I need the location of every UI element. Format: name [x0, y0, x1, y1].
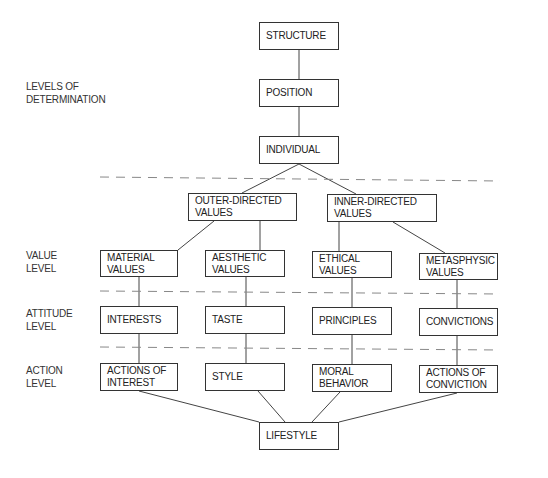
node-taste: TASTE — [205, 306, 285, 334]
node-convictions: CONVICTIONS — [419, 308, 498, 336]
label-value-level: VALUE LEVEL — [26, 249, 57, 275]
node-inner-directed-values: INNER-DIRECTED VALUES — [327, 194, 437, 222]
node-label: METASPHYSIC VALUES — [426, 255, 495, 279]
node-label: INNER-DIRECTED VALUES — [334, 196, 417, 220]
node-position: POSITION — [259, 79, 339, 107]
connector-lines — [0, 0, 548, 478]
node-ethical-values: ETHICAL VALUES — [312, 251, 392, 278]
node-material-values: MATERIAL VALUES — [100, 250, 178, 277]
node-individual: INDIVIDUAL — [259, 136, 339, 164]
node-label: AESTHETIC VALUES — [212, 252, 266, 276]
label-action-level: ACTION LEVEL — [26, 364, 63, 390]
node-actions-of-conviction: ACTIONS OF CONVICTION — [419, 365, 498, 393]
node-label: LIFESTYLE — [266, 430, 317, 442]
node-label: STRUCTURE — [266, 30, 326, 42]
node-label: STYLE — [212, 371, 243, 383]
node-label: ACTIONS OF CONVICTION — [426, 367, 487, 391]
node-label: TASTE — [212, 314, 243, 326]
node-metasphysic-values: METASPHYSIC VALUES — [419, 253, 498, 280]
label-attitude-level: ATTITUDE LEVEL — [26, 307, 73, 333]
node-label: OUTER-DIRECTED VALUES — [195, 195, 282, 219]
node-label: CONVICTIONS — [426, 316, 493, 328]
node-label: INDIVIDUAL — [266, 144, 320, 156]
node-principles: PRINCIPLES — [312, 307, 392, 335]
node-outer-directed-values: OUTER-DIRECTED VALUES — [188, 193, 297, 221]
node-label: POSITION — [266, 87, 312, 99]
node-label: INTERESTS — [107, 314, 161, 326]
node-style: STYLE — [205, 363, 285, 391]
node-moral-behavior: MORAL BEHAVIOR — [312, 364, 392, 392]
node-interests: INTERESTS — [100, 306, 178, 334]
node-label: MORAL BEHAVIOR — [319, 366, 368, 390]
node-lifestyle: LIFESTYLE — [259, 422, 339, 450]
node-label: PRINCIPLES — [319, 315, 376, 327]
node-aesthetic-values: AESTHETIC VALUES — [205, 250, 285, 277]
node-label: MATERIAL VALUES — [107, 252, 155, 276]
label-levels-of-determination: LEVELS OF DETERMINATION — [26, 80, 105, 106]
node-structure: STRUCTURE — [259, 22, 339, 50]
node-label: ETHICAL VALUES — [319, 253, 360, 277]
node-actions-of-interest: ACTIONS OF INTEREST — [100, 363, 178, 391]
node-label: ACTIONS OF INTEREST — [107, 365, 166, 389]
